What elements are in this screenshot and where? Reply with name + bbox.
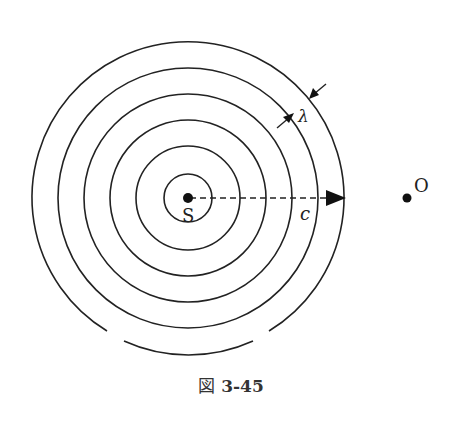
velocity-label: c: [300, 203, 310, 224]
observer-dot: [403, 194, 412, 203]
figure-caption: 図3-45: [0, 372, 462, 397]
caption-prefix: 図: [198, 376, 215, 396]
caption-number: 3-45: [221, 376, 264, 396]
source-dot: [183, 193, 193, 203]
wave-diagram: S c O λ: [0, 0, 462, 421]
wavelength-arrowhead-outer-icon: [309, 88, 319, 99]
wavefront-6: [32, 42, 344, 331]
velocity-arrowhead-icon: [326, 190, 346, 206]
wavefront-6-bottom: [124, 341, 253, 355]
wavelength-label: λ: [297, 106, 309, 126]
observer-label: O: [414, 175, 429, 196]
source-label: S: [182, 205, 194, 226]
